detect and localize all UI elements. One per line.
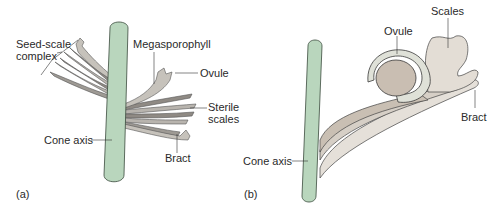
cone-axis-b (302, 40, 322, 202)
sterile-scales-fan (124, 68, 196, 140)
label-sterile-scales-line2: scales (208, 113, 239, 125)
panel-b-tag: (b) (244, 188, 257, 200)
panel-b-drawing (292, 18, 478, 202)
label-megasporophyll: Megasporophyll (133, 38, 211, 50)
label-seed-scale-complex-line1: Seed-scale (16, 38, 71, 50)
label-bract-a: Bract (165, 152, 191, 164)
label-seed-scale-complex-line2: complex (16, 50, 57, 62)
scales-shape-b (425, 36, 478, 92)
label-cone-axis-a: Cone axis (44, 134, 93, 146)
label-cone-axis-b: Cone axis (243, 155, 292, 167)
cone-axis-a (104, 22, 128, 182)
cone-diagram-illustration (0, 0, 499, 219)
label-scales-b: Scales (431, 5, 464, 17)
panel-a-tag: (a) (16, 188, 29, 200)
ovule-core-b (376, 60, 416, 96)
figure-canvas: Seed-scale complex Megasporophyll Ovule … (0, 0, 499, 219)
label-sterile-scales-line1: Sterile (208, 101, 239, 113)
label-bract-b: Bract (461, 111, 487, 123)
label-ovule-a: Ovule (200, 67, 229, 79)
label-ovule-b: Ovule (384, 25, 413, 37)
